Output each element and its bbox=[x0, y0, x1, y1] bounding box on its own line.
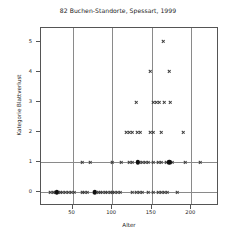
x-tick-label-200: 200 bbox=[185, 209, 195, 215]
plot-area bbox=[41, 28, 217, 204]
data-point bbox=[136, 130, 139, 133]
y-tick-label-2: 2 bbox=[29, 128, 32, 134]
data-point bbox=[128, 130, 131, 133]
gridline-vertical-200 bbox=[191, 28, 192, 204]
y-tick-label-3: 3 bbox=[29, 98, 32, 104]
y-tick-label-group: 012345 bbox=[0, 27, 37, 205]
x-tick-label-150: 150 bbox=[146, 209, 156, 215]
y-tick-label-0: 0 bbox=[29, 188, 32, 194]
data-point bbox=[160, 130, 163, 133]
data-point bbox=[155, 100, 158, 103]
y-tick-2 bbox=[36, 131, 40, 132]
data-point bbox=[131, 130, 134, 133]
scatter-plot-figure: 82 Buchen-Standorte, Spessart, 1999 Kate… bbox=[0, 0, 236, 241]
y-tick-1 bbox=[36, 161, 40, 162]
x-tick-label-100: 100 bbox=[106, 209, 116, 215]
data-point bbox=[169, 100, 172, 103]
data-point bbox=[125, 130, 128, 133]
y-tick-3 bbox=[36, 101, 40, 102]
x-tick-label-50: 50 bbox=[68, 209, 75, 215]
data-point bbox=[161, 40, 164, 43]
gridline-vertical-50 bbox=[73, 28, 74, 204]
data-point bbox=[158, 100, 161, 103]
gridline-vertical-100 bbox=[112, 28, 113, 204]
y-tick-label-1: 1 bbox=[29, 158, 32, 164]
data-point bbox=[139, 130, 142, 133]
data-point bbox=[163, 100, 166, 103]
data-point bbox=[182, 130, 185, 133]
data-point bbox=[167, 70, 170, 73]
gridline-horizontal-0 bbox=[41, 192, 217, 193]
page-title: 82 Buchen-Standorte, Spessart, 1999 bbox=[0, 7, 236, 14]
gridline-horizontal-1 bbox=[41, 162, 217, 163]
y-tick-label-4: 4 bbox=[29, 68, 32, 74]
y-tick-4 bbox=[36, 71, 40, 72]
y-tick-label-5: 5 bbox=[29, 38, 32, 44]
y-tick-0 bbox=[36, 191, 40, 192]
gridline-vertical-150 bbox=[152, 28, 153, 204]
y-tick-5 bbox=[36, 41, 40, 42]
plot-frame bbox=[40, 27, 218, 205]
x-axis-title: Alter bbox=[40, 222, 218, 228]
data-point bbox=[134, 100, 137, 103]
